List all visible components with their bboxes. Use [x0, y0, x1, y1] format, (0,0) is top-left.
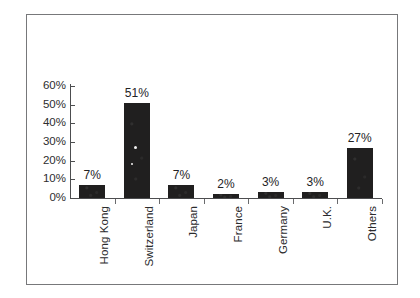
scan-artifact-speck [134, 146, 137, 149]
x-axis-category-label: U.K. [321, 206, 333, 229]
y-axis-tick-mark [70, 198, 75, 199]
bar [168, 185, 194, 198]
x-axis-tick-mark [159, 199, 160, 204]
chart-page: 0%10%20%30%40%50%60% Hong KongSwitzerlan… [0, 0, 420, 298]
bar-value-label: 27% [330, 132, 390, 144]
y-axis-tick-label: 10% [22, 173, 66, 184]
x-axis-category-label: Switzerland [143, 206, 155, 267]
x-axis-tick-mark [115, 199, 116, 204]
y-axis-tick-label: 30% [22, 136, 66, 147]
y-axis-tick-label: 20% [22, 155, 66, 166]
y-axis-tick-label: 0% [22, 192, 66, 203]
x-axis-category-label: Hong Kong [98, 206, 110, 264]
bar-value-label: 51% [107, 87, 167, 99]
y-axis-tick-label: 40% [22, 117, 66, 128]
x-axis-category-label: Japan [187, 206, 199, 238]
x-axis-category-label: France [232, 206, 244, 242]
x-axis-tick-mark [293, 199, 294, 204]
x-axis-tick-mark [248, 199, 249, 204]
scan-artifact-speck [131, 163, 133, 165]
bar [258, 192, 284, 198]
y-axis-tick-labels: 0%10%20%30%40%50%60% [20, 0, 66, 298]
bar [79, 185, 105, 198]
x-axis-category-label: Germany [277, 206, 289, 254]
x-axis-tick-mark [337, 199, 338, 204]
bar-value-label: 7% [62, 169, 122, 181]
y-axis-tick-label: 50% [22, 99, 66, 110]
y-axis-tick-label: 60% [22, 80, 66, 91]
bar [302, 192, 328, 198]
x-axis-tick-mark [204, 199, 205, 204]
x-axis-category-label: Others [366, 206, 378, 241]
x-axis-tick-mark [382, 199, 383, 204]
bar-value-label: 3% [285, 176, 345, 188]
bar [347, 148, 373, 198]
bar [213, 194, 239, 198]
bar [124, 103, 150, 198]
x-axis-line [70, 198, 382, 199]
